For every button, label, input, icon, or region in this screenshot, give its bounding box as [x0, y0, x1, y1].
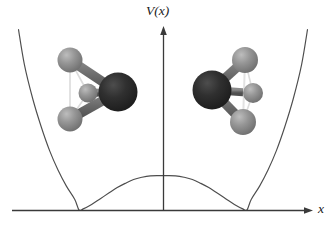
double-well-plot: [0, 0, 333, 227]
atom-hydrogen-right-top: [232, 47, 258, 73]
atom-hydrogen-left-top: [58, 48, 83, 73]
x-axis-label: x: [318, 202, 324, 216]
atom-nitrogen-left: [99, 73, 138, 112]
y-axis-arrowhead: [160, 26, 167, 35]
atom-hydrogen-right-bottom: [230, 109, 256, 135]
x-axis-arrowhead: [304, 207, 313, 214]
ammonia-left-configuration: [58, 48, 138, 132]
atom-hydrogen-left-middle: [79, 84, 98, 103]
atom-nitrogen-right: [193, 71, 232, 110]
atom-hydrogen-left-bottom: [58, 107, 83, 132]
potential-energy-figure: V(x) x: [0, 0, 333, 227]
y-axis-label: V(x): [146, 4, 169, 18]
axes-group: [12, 26, 313, 214]
atom-hydrogen-right-middle: [243, 83, 263, 103]
ammonia-right-configuration: [193, 47, 264, 135]
